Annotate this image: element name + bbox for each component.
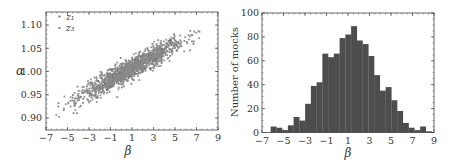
histogram-bar xyxy=(322,54,328,133)
histogram-bar xyxy=(380,91,386,133)
scatter-x-tick-label: 9 xyxy=(215,132,221,143)
scatter-y-tick-label: 0.95 xyxy=(21,89,42,100)
scatter-x-tick-label: 5 xyxy=(172,132,178,143)
scatter-x-axis-label: β xyxy=(124,144,132,158)
scatter-x-tick-label: 1 xyxy=(129,132,135,143)
histogram-bar xyxy=(386,87,392,132)
histogram-x-tick-label: 1 xyxy=(345,135,351,146)
scatter-x-tick-label: 3 xyxy=(150,132,156,143)
histogram-x-tick-label: −1 xyxy=(319,135,333,146)
histogram-x-tick-label: −5 xyxy=(276,135,290,146)
legend-label-z1: z₁ xyxy=(65,12,74,22)
scatter-y-tick-label: 1.10 xyxy=(21,19,42,30)
histogram-bar xyxy=(305,104,311,133)
histogram-bar xyxy=(340,38,346,132)
histogram-bar xyxy=(403,123,409,133)
histogram-panel: −7−5−3−113579 020406080100 β Number of m… xyxy=(229,7,437,160)
histogram-y-tick-label: 100 xyxy=(241,7,259,18)
histogram-bar xyxy=(299,121,305,133)
histogram-bar xyxy=(363,44,369,132)
histogram-x-tick-label: 3 xyxy=(366,135,372,146)
scatter-x-tick-label: −5 xyxy=(60,132,74,143)
histogram-bar xyxy=(294,117,300,133)
histogram-y-tick-label: 80 xyxy=(247,31,259,42)
histogram-bar xyxy=(368,56,374,132)
scatter-panel: −7−5−3−113579 0.900.951.001.051.10 z₁ z₃… xyxy=(16,12,221,159)
histogram-y-axis-label: Number of mocks xyxy=(229,27,240,117)
histogram-bar xyxy=(391,100,397,132)
histogram-bar xyxy=(397,111,403,133)
scatter-y-tick-label: 1.05 xyxy=(21,43,42,54)
scatter-legend: z₁ z₃ xyxy=(59,12,75,34)
scatter-points xyxy=(55,30,200,118)
figure: −7−5−3−113579 0.900.951.001.051.10 z₁ z₃… xyxy=(0,0,451,165)
scatter-y-axis-label: α xyxy=(16,64,24,78)
scatter-x-tick-label: −3 xyxy=(82,132,96,143)
histogram-x-tick-label: 7 xyxy=(409,135,415,146)
scatter-x-tick-label: −7 xyxy=(39,132,53,143)
histogram-bar xyxy=(420,127,426,133)
histogram-bar xyxy=(345,35,351,133)
histogram-y-tick-label: 40 xyxy=(247,79,259,90)
histogram-bar xyxy=(271,127,277,133)
legend-marker-z3 xyxy=(59,27,61,29)
histogram-x-tick-label: 9 xyxy=(431,135,437,146)
histogram-bar xyxy=(357,40,363,132)
histogram-bar xyxy=(351,26,357,132)
histogram-x-tick-label: −3 xyxy=(298,135,312,146)
histogram-bar xyxy=(288,125,294,132)
histogram-x-tick-label: 5 xyxy=(388,135,394,146)
histogram-y-tick-label: 20 xyxy=(247,103,259,114)
histogram-bar xyxy=(374,75,380,132)
histogram-bar xyxy=(409,128,415,133)
scatter-x-tick-label: 7 xyxy=(193,132,199,143)
histogram-bar xyxy=(311,86,317,133)
histogram-x-axis-label: β xyxy=(344,146,352,160)
legend-label-z3: z₃ xyxy=(65,23,75,33)
legend-marker-z1 xyxy=(59,16,61,18)
histogram-bars xyxy=(271,26,432,132)
scatter-x-tick-label: −1 xyxy=(103,132,117,143)
histogram-y-tick-label: 60 xyxy=(247,55,259,66)
histogram-y-tick-label: 0 xyxy=(253,127,259,138)
histogram-bar xyxy=(334,54,340,133)
histogram-bar xyxy=(276,128,282,133)
histogram-bar xyxy=(328,57,334,132)
scatter-y-tick-label: 0.90 xyxy=(21,112,42,123)
histogram-bar xyxy=(317,82,323,132)
